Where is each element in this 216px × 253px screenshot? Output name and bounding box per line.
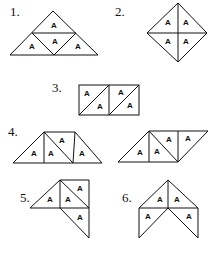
cell-letter: A	[79, 149, 85, 158]
cell-letter: A	[165, 37, 171, 46]
cell-letter: A	[157, 195, 163, 204]
cell-letter: A	[186, 212, 192, 221]
cell-letter: A	[48, 149, 54, 158]
figure-3: 3. A A A A	[52, 80, 139, 115]
figure-1-label: 1.	[10, 4, 20, 19]
cell-letter: A	[137, 148, 143, 157]
cell-letter: A	[185, 134, 191, 143]
figure-4a: 4. A A A A	[8, 124, 102, 163]
cell-letter: A	[59, 136, 65, 145]
figure-5: 5. A A A A	[20, 180, 89, 238]
cell-letter: A	[183, 37, 189, 46]
cell-letter: A	[47, 195, 53, 204]
figure-2: 2. A A A A	[115, 3, 207, 62]
figure-6: 6. A A A A	[122, 180, 198, 238]
figure-1: 1. A A A A	[10, 4, 98, 55]
cell-letter: A	[183, 18, 189, 27]
figure-4a-outline	[13, 132, 102, 163]
cell-letter: A	[118, 88, 124, 97]
cell-letter: A	[29, 42, 35, 51]
figure-3-line	[109, 85, 139, 115]
cell-letter: A	[154, 147, 160, 156]
figure-4a-line	[73, 132, 75, 163]
cell-letter: A	[166, 135, 172, 144]
cell-letter: A	[174, 195, 180, 204]
figure-5-label: 5.	[20, 190, 30, 205]
figure-3-label: 3.	[52, 80, 62, 95]
figure-6-label: 6.	[122, 190, 132, 205]
cell-letter: A	[31, 149, 37, 158]
cell-letter: A	[52, 37, 58, 46]
cell-letter: A	[97, 102, 103, 111]
figure-4-label: 4.	[8, 124, 18, 139]
cell-letter: A	[165, 18, 171, 27]
figure-1-line	[32, 33, 54, 55]
cell-letter: A	[65, 195, 71, 204]
cell-letter: A	[127, 101, 133, 110]
cell-letter: A	[145, 212, 151, 221]
cell-letter: A	[77, 213, 83, 222]
figure-4b: A A A A	[118, 131, 208, 162]
cell-letter: A	[51, 21, 57, 30]
triangle-puzzle-diagram: 1. A A A A 2. A A A A 3. A A A A 4.	[0, 0, 216, 253]
figure-2-label: 2.	[115, 4, 125, 19]
cell-letter: A	[84, 89, 90, 98]
cell-letter: A	[75, 42, 81, 51]
cell-letter: A	[77, 184, 83, 193]
